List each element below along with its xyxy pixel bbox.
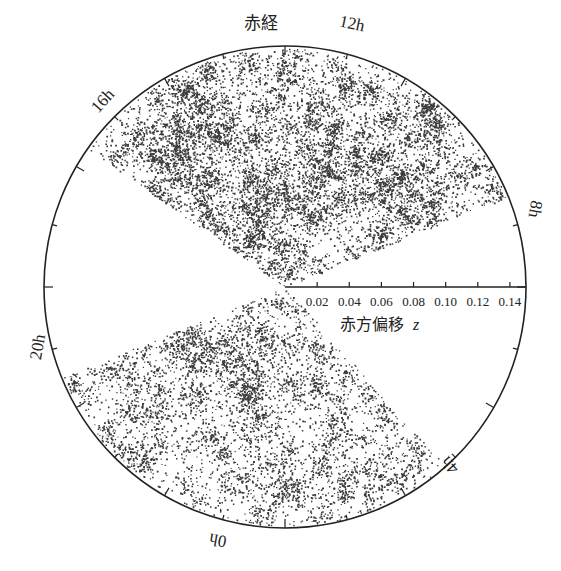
ra-tick (223, 515, 224, 520)
ra-tick (513, 348, 518, 349)
redshift-axis-var: z (412, 316, 420, 333)
ra-tick (165, 488, 170, 496)
redshift-tick-label: 0.02 (306, 294, 329, 309)
ra-tick (115, 454, 119, 458)
redshift-axis-label: 赤方偏移 z (340, 315, 420, 334)
ra-tick (115, 117, 119, 121)
ra-tick (486, 403, 494, 408)
redshift-tick-label: 0.10 (434, 294, 457, 309)
ra-tick (401, 488, 406, 496)
ra-label-8h: 8h (525, 199, 547, 220)
ra-tick (52, 225, 57, 226)
redshift-tick-label: 0.12 (466, 294, 489, 309)
ra-label-12h: 12h (338, 12, 367, 36)
redshift-tick-label: 0.06 (370, 294, 393, 309)
ra-tick (223, 54, 224, 59)
ra-label-20h: 20h (26, 332, 49, 361)
ra-label-4h: 4h (437, 452, 463, 478)
ra-label-0h: 0h (207, 530, 228, 552)
redshift-axis: 0.020.040.060.080.100.120.14 (285, 282, 526, 309)
redshift-tick-label: 0.08 (402, 294, 425, 309)
ra-tick (346, 515, 347, 520)
ra-title-label: 赤経 (244, 13, 278, 33)
redshift-cone-diagram: 0.020.040.060.080.100.120.14 赤経 12h16h8h… (0, 0, 561, 571)
redshift-tick-label: 0.14 (499, 294, 522, 309)
ra-tick (513, 225, 518, 226)
ra-tick (52, 348, 57, 349)
ra-tick (452, 117, 456, 121)
redshift-axis-label-text: 赤方偏移 (340, 315, 404, 334)
ra-tick (76, 167, 84, 172)
ra-label-16h: 16h (87, 84, 119, 116)
ra-labels: 12h16h8h20h0h4h (26, 12, 546, 552)
redshift-tick-label: 0.04 (338, 294, 361, 309)
